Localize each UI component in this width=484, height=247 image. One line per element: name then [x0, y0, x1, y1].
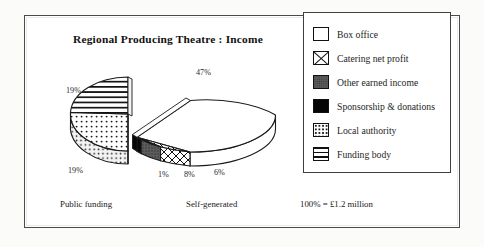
legend-label-other-earned-income: Other earned income [337, 77, 418, 88]
swatch-other-earned-income-icon [313, 75, 329, 89]
value-label-box-office: 47% [196, 68, 211, 77]
legend-label-funding-body: Funding body [337, 149, 391, 160]
legend-label-catering-net-profit: Catering net profit [337, 53, 409, 64]
pie-svg [40, 60, 290, 180]
legend-item-sponsorship-donations[interactable]: Sponsorship & donations [313, 94, 450, 118]
swatch-catering-net-profit-icon [313, 51, 329, 65]
legend: Box office Catering net profit Other ear… [303, 12, 451, 173]
legend-item-box-office[interactable]: Box office [313, 22, 450, 46]
legend-label-box-office: Box office [337, 29, 378, 40]
value-label-local-authority: 19% [68, 166, 83, 175]
value-label-funding-body: 19% [66, 86, 81, 95]
slice-top-funding-body [71, 77, 129, 114]
caption-total-note: 100% = £1.2 million [300, 199, 373, 209]
value-label-sponsorship: 1% [158, 170, 169, 179]
swatch-box-office-icon [313, 27, 329, 41]
swatch-funding-body-icon [313, 147, 329, 161]
legend-item-other-earned-income[interactable]: Other earned income [313, 70, 450, 94]
legend-label-local-authority: Local authority [337, 125, 396, 136]
swatch-sponsorship-donations-icon [313, 99, 329, 113]
legend-item-funding-body[interactable]: Funding body [313, 142, 450, 166]
slice-wall-funding-body-cut [128, 77, 132, 116]
legend-item-local-authority[interactable]: Local authority [313, 118, 450, 142]
caption-self-generated: Self-generated [186, 199, 237, 209]
chart-image: Regional Producing Theatre : Income [0, 0, 484, 247]
legend-item-catering-net-profit[interactable]: Catering net profit [313, 46, 450, 70]
pie-chart [40, 60, 290, 180]
caption-public-funding: Public funding [60, 199, 112, 209]
value-label-other-earned: 8% [184, 170, 195, 179]
value-label-catering: 6% [214, 168, 225, 177]
swatch-local-authority-icon [313, 123, 329, 137]
chart-title: Regional Producing Theatre : Income [48, 33, 288, 45]
legend-label-sponsorship-donations: Sponsorship & donations [337, 101, 435, 112]
